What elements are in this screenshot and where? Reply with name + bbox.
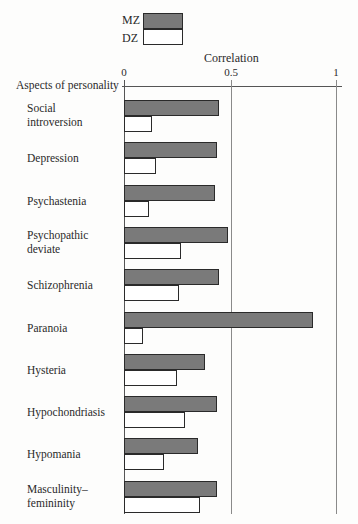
category-label-line1: Psychopathic xyxy=(27,228,122,242)
category-label: Socialintroversion xyxy=(27,101,122,129)
legend-swatch-mz xyxy=(143,13,183,29)
category-label-line1: Hysteria xyxy=(27,363,122,377)
bar-dz xyxy=(124,370,177,386)
y-axis-title: Aspects of personality xyxy=(16,79,119,91)
bar-mz xyxy=(124,481,217,497)
category-label-line1: Hypomania xyxy=(27,447,122,461)
bar-mz xyxy=(124,312,313,328)
x-tick-0-5: 0.5 xyxy=(224,66,238,78)
bar-mz xyxy=(124,185,215,201)
category-label: Hypochondriasis xyxy=(27,405,122,419)
x-tick-1: 1 xyxy=(333,66,339,78)
category-label-line2: introversion xyxy=(27,115,122,129)
bar-dz xyxy=(124,328,143,344)
category-label-line1: Depression xyxy=(27,151,122,165)
category-label: Psychastenia xyxy=(27,194,122,208)
category-label: Hysteria xyxy=(27,363,122,377)
category-label-line2: deviate xyxy=(27,242,122,256)
bar-mz xyxy=(124,354,205,370)
bar-dz xyxy=(124,497,200,513)
bar-mz xyxy=(124,269,219,285)
category-label: Paranoia xyxy=(27,321,122,335)
category-label-line1: Social xyxy=(27,101,122,115)
bar-dz xyxy=(124,454,164,470)
category-label-line1: Schizophrenia xyxy=(27,278,122,292)
bar-dz xyxy=(124,412,185,428)
bar-dz xyxy=(124,201,149,217)
legend-swatch-dz xyxy=(143,29,183,45)
x-tick-0: 0 xyxy=(121,66,127,78)
category-label-line2: femininity xyxy=(27,496,122,510)
bar-mz xyxy=(124,396,217,412)
bar-dz xyxy=(124,116,152,132)
legend-label-mz: MZ xyxy=(122,13,140,28)
bar-mz xyxy=(124,227,228,243)
bar-dz xyxy=(124,158,156,174)
category-label-line1: Hypochondriasis xyxy=(27,405,122,419)
category-label: Masculinity–femininity xyxy=(27,482,122,510)
x-axis-title: Correlation xyxy=(204,51,259,66)
bar-dz xyxy=(124,285,179,301)
gridline-0-5 xyxy=(231,80,232,514)
bar-mz xyxy=(124,100,219,116)
category-label-line1: Masculinity– xyxy=(27,482,122,496)
category-label: Depression xyxy=(27,151,122,165)
x-axis-line xyxy=(122,86,342,87)
category-label: Psychopathicdeviate xyxy=(27,228,122,256)
category-label: Hypomania xyxy=(27,447,122,461)
bar-mz xyxy=(124,438,198,454)
bar-mz xyxy=(124,142,217,158)
category-label-line1: Paranoia xyxy=(27,321,122,335)
category-label-line1: Psychastenia xyxy=(27,194,122,208)
legend-label-dz: DZ xyxy=(122,31,138,46)
gridline-1 xyxy=(336,80,337,514)
bar-dz xyxy=(124,243,181,259)
category-label: Schizophrenia xyxy=(27,278,122,292)
